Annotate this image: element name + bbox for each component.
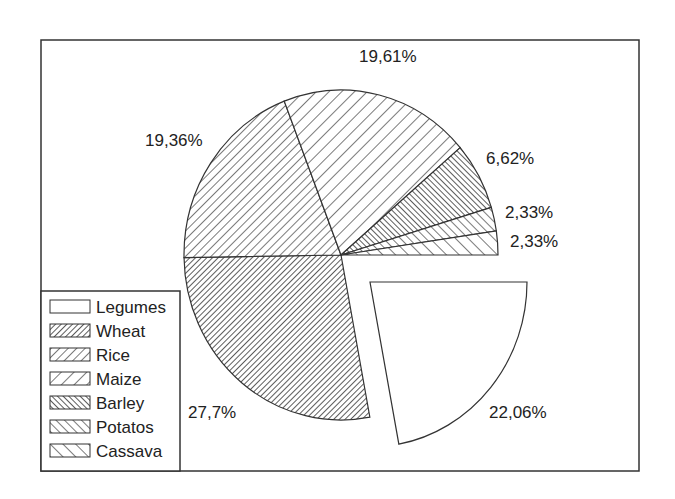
svg-text:Barley: Barley	[96, 394, 145, 413]
pie-chart: 22,06% 27,7% 19,36% 19,61% 6,62% 2,33% 2…	[0, 0, 675, 499]
svg-text:Potatos: Potatos	[96, 418, 154, 437]
label-potatos: 2,33%	[505, 203, 553, 222]
legend: Legumes Wheat Rice Maize Barley Potatos …	[41, 291, 180, 471]
label-wheat: 27,7%	[188, 403, 236, 422]
svg-text:Legumes: Legumes	[96, 298, 166, 317]
svg-text:Wheat: Wheat	[96, 322, 145, 341]
label-legumes: 22,06%	[489, 403, 547, 422]
svg-text:Cassava: Cassava	[96, 442, 163, 461]
label-cassava: 2,33%	[510, 232, 558, 251]
label-rice: 19,36%	[145, 131, 203, 150]
svg-text:Rice: Rice	[96, 346, 130, 365]
label-barley: 6,62%	[486, 149, 534, 168]
svg-text:Maize: Maize	[96, 370, 141, 389]
label-maize: 19,61%	[359, 47, 417, 66]
